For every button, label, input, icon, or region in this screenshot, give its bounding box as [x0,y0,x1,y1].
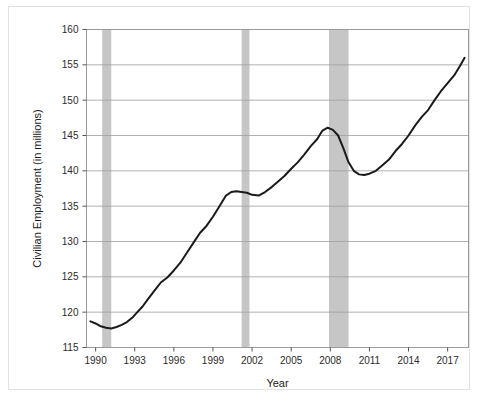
x-tick-label-2011: 2011 [359,355,381,366]
x-tick-label-1996: 1996 [163,355,186,366]
y-tick-label-160: 160 [62,24,79,35]
x-tick-label-2002: 2002 [241,355,264,366]
recession-band-3 [329,30,349,348]
y-tick-label-145: 145 [62,130,79,141]
x-tick-label-2005: 2005 [280,355,303,366]
x-axis: 1990199319961999200220052008201120142017 [85,348,460,366]
x-tick-label-1993: 1993 [124,355,147,366]
plot-background [87,30,469,348]
y-tick-label-120: 120 [62,307,79,318]
line-chart: 1151201251301351401451501551601990199319… [0,0,480,406]
y-tick-label-140: 140 [62,165,79,176]
x-axis-title: Year [266,377,289,389]
chart-figure: 1151201251301351401451501551601990199319… [0,0,480,406]
recession-band-2 [242,30,250,348]
recession-band-1 [102,30,111,348]
x-tick-label-2017: 2017 [437,355,460,366]
x-tick-label-2014: 2014 [397,355,420,366]
y-tick-label-115: 115 [63,342,79,353]
y-tick-label-150: 150 [62,95,79,106]
y-tick-label-135: 135 [62,201,79,212]
y-tick-label-130: 130 [62,236,79,247]
x-tick-label-2008: 2008 [319,355,342,366]
x-tick-label-1999: 1999 [202,355,225,366]
y-axis-title: Civilian Employment (in millions) [31,109,43,267]
x-tick-label-1990: 1990 [85,355,108,366]
y-tick-label-155: 155 [62,59,79,70]
y-tick-label-125: 125 [62,271,79,282]
y-axis: 115120125130135140145150155160 [62,24,87,353]
